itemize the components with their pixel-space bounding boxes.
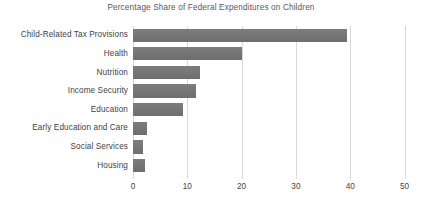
bar bbox=[133, 84, 196, 97]
bar bbox=[133, 66, 200, 79]
bar-row bbox=[133, 82, 405, 101]
category-label: Nutrition bbox=[0, 68, 128, 78]
plot-area bbox=[133, 26, 405, 175]
category-label: Social Services bbox=[0, 142, 128, 152]
category-axis-labels: Child-Related Tax ProvisionsHealthNutrit… bbox=[0, 26, 128, 175]
bar-row bbox=[133, 156, 405, 175]
bar bbox=[133, 103, 183, 116]
category-label: Child-Related Tax Provisions bbox=[0, 30, 128, 40]
x-tick-label: 30 bbox=[291, 182, 300, 192]
chart-title: Percentage Share of Federal Expenditures… bbox=[0, 3, 422, 13]
bar bbox=[133, 140, 143, 153]
x-axis-tick-labels: 01020304050 bbox=[133, 182, 413, 196]
gridline-50 bbox=[405, 26, 406, 179]
bar-row bbox=[133, 26, 405, 45]
bar bbox=[133, 159, 145, 172]
bar bbox=[133, 122, 147, 135]
category-label: Health bbox=[0, 49, 128, 59]
x-tick-label: 50 bbox=[400, 182, 409, 192]
category-label: Education bbox=[0, 105, 128, 115]
x-tick-label: 20 bbox=[237, 182, 246, 192]
bar-chart: Percentage Share of Federal Expenditures… bbox=[0, 0, 422, 202]
category-label: Income Security bbox=[0, 86, 128, 96]
x-tick-label: 40 bbox=[346, 182, 355, 192]
category-label: Early Education and Care bbox=[0, 123, 128, 133]
x-tick-label: 10 bbox=[183, 182, 192, 192]
bar bbox=[133, 29, 347, 42]
bar-row bbox=[133, 101, 405, 120]
bar bbox=[133, 47, 242, 60]
category-label: Housing bbox=[0, 161, 128, 171]
x-tick-label: 0 bbox=[131, 182, 136, 192]
bar-row bbox=[133, 119, 405, 138]
bar-row bbox=[133, 45, 405, 64]
bar-row bbox=[133, 63, 405, 82]
bar-series bbox=[133, 26, 405, 175]
bar-row bbox=[133, 138, 405, 157]
